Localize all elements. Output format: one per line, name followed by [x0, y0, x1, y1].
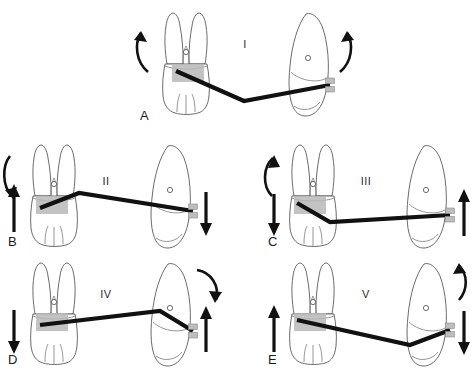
moment-arrow-anterior: [340, 31, 354, 72]
force-arrow-molar-down: [8, 310, 20, 354]
anterior-tooth: [407, 146, 446, 248]
force-arrow-molar-down: [268, 194, 280, 236]
anterior-tooth: [151, 146, 190, 248]
force-arrow-anterior-down: [458, 311, 470, 355]
anterior-tooth: [407, 264, 446, 366]
force-arrow-anterior-down: [200, 192, 212, 236]
panel-numeral: II: [102, 175, 109, 187]
force-arrow-anterior-up: [458, 189, 470, 236]
anterior-tooth: [289, 14, 328, 116]
panel-e: V E: [268, 263, 470, 367]
moment-arrow-anterior: [453, 263, 466, 300]
panel-numeral: III: [361, 175, 372, 187]
force-arrow-molar-up: [268, 305, 280, 352]
panel-a: I A: [134, 13, 354, 123]
panel-numeral: I: [243, 38, 247, 50]
orthodontic-figure: I A II B: [0, 0, 474, 381]
moment-arrow-molar: [265, 155, 280, 196]
figure-canvas: I A II B: [0, 0, 474, 381]
panel-d: IV D: [8, 263, 222, 367]
anterior-tooth: [151, 264, 190, 366]
panel-c: III C: [265, 145, 470, 249]
moment-arrow-molar: [134, 31, 148, 72]
moment-arrow-anterior: [197, 270, 222, 303]
force-arrow-anterior-up: [200, 306, 212, 352]
panel-letter: C: [268, 234, 277, 249]
panel-letter: A: [140, 108, 149, 123]
panel-numeral: V: [362, 288, 370, 300]
panel-letter: D: [8, 352, 17, 367]
panel-letter: B: [8, 234, 17, 249]
panel-b: II B: [4, 145, 212, 249]
panel-letter: E: [268, 352, 277, 367]
panel-numeral: IV: [100, 288, 112, 300]
